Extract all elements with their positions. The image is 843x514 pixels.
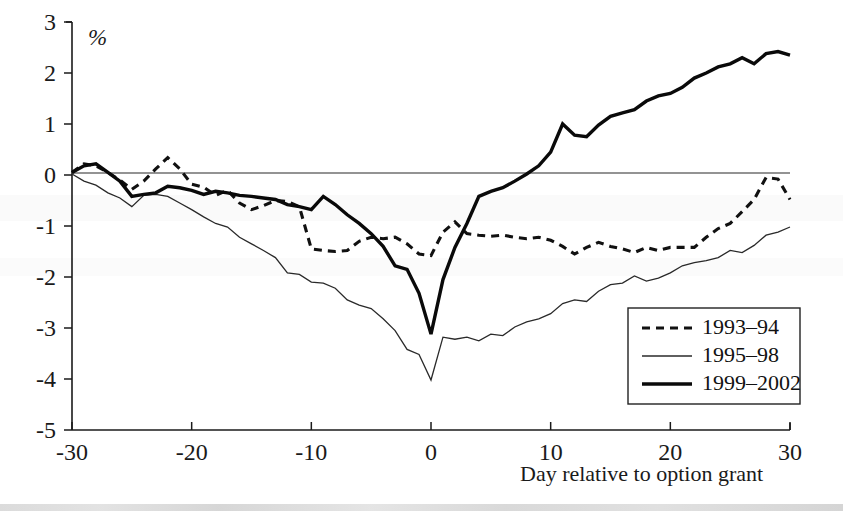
y-tick-label: 2 <box>44 60 56 86</box>
page-scan-edge <box>0 504 843 511</box>
y-tick-label: -5 <box>36 417 56 443</box>
chart-legend: 1993–941995–981999–2002 <box>628 308 801 404</box>
line-chart: 3210-1-2-3-4-5 -30-20-100102030 % Day re… <box>0 0 843 514</box>
chart-figure: 3210-1-2-3-4-5 -30-20-100102030 % Day re… <box>0 0 843 514</box>
y-tick-label: 1 <box>44 111 56 137</box>
x-tick-label: 30 <box>778 439 802 465</box>
legend-label: 1999–2002 <box>702 370 801 395</box>
y-axis-ticks <box>64 22 72 430</box>
y-tick-label: -3 <box>36 315 56 341</box>
y-tick-label: 3 <box>44 9 56 35</box>
y-tick-label: 0 <box>44 162 56 188</box>
x-tick-label: -20 <box>176 439 208 465</box>
y-tick-label: -2 <box>36 264 56 290</box>
series-line-1993-94 <box>72 158 790 256</box>
y-axis-unit-label: % <box>88 25 107 50</box>
y-tick-label: -1 <box>36 213 56 239</box>
x-axis-ticks <box>72 422 790 430</box>
y-tick-label: -4 <box>36 366 56 392</box>
legend-label: 1993–94 <box>702 314 779 339</box>
x-tick-label: 0 <box>425 439 437 465</box>
x-tick-label: -30 <box>56 439 88 465</box>
series-line-1999-2002 <box>72 52 790 335</box>
x-tick-label: -10 <box>295 439 327 465</box>
y-axis-tick-labels: 3210-1-2-3-4-5 <box>36 9 56 443</box>
x-axis-title: Day relative to option grant <box>520 461 763 486</box>
legend-label: 1995–98 <box>702 342 779 367</box>
